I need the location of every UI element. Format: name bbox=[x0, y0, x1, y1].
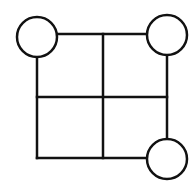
circle-top-right bbox=[147, 15, 187, 55]
circle-bottom-right bbox=[147, 139, 187, 179]
grid-lines bbox=[37, 34, 167, 158]
circle-top-left bbox=[17, 17, 57, 57]
grid-diagram bbox=[0, 0, 194, 183]
